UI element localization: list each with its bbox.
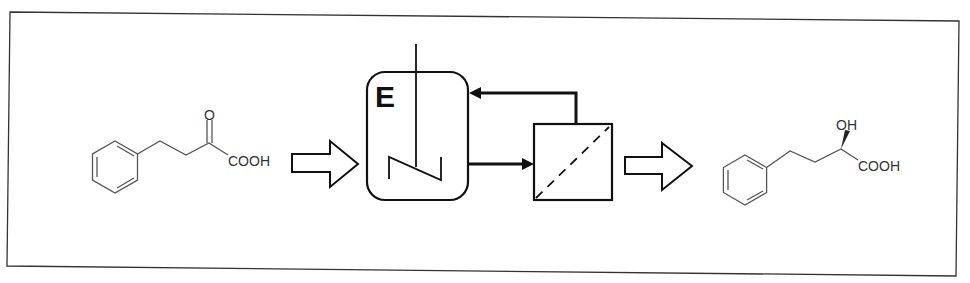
- product-structure: [723, 149, 858, 205]
- feed-arrow-icon: [292, 141, 358, 187]
- oxygen-label: O: [204, 107, 215, 123]
- membrane-unit: [534, 124, 612, 200]
- substrate-structure: [93, 120, 229, 193]
- carbon-chain: [138, 141, 229, 155]
- process-diagram: O COOH E OH COOH: [0, 0, 970, 283]
- arrowhead-icon: [522, 158, 534, 170]
- product-arrow-icon: [625, 143, 692, 190]
- oh-label: OH: [836, 117, 857, 133]
- figure-frame: [7, 12, 959, 276]
- enzyme-label: E: [375, 80, 395, 113]
- benzene-ring-substrate: [93, 141, 138, 193]
- arrowhead-icon: [469, 87, 481, 99]
- cooh-label-substrate: COOH: [228, 153, 270, 169]
- cooh-label-product: COOH: [858, 158, 900, 174]
- enzyme-reactor: E: [367, 44, 468, 200]
- recycle-line: [480, 93, 576, 124]
- carbon-chain: [767, 149, 858, 168]
- benzene-ring-product: [723, 155, 766, 205]
